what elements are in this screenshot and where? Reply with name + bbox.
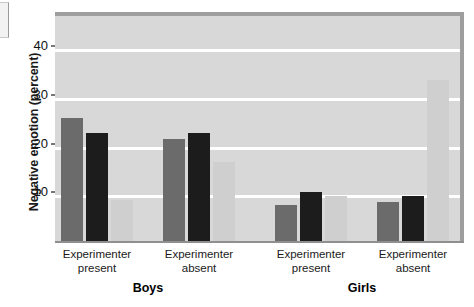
plot-area (55, 12, 464, 241)
cluster-label-line: absent (353, 261, 473, 275)
cluster-label-line: Experimenter (353, 247, 473, 261)
bar (275, 205, 297, 241)
bar (111, 200, 133, 241)
cluster-label: Experimenterabsent (353, 247, 473, 275)
bar (163, 139, 185, 241)
bar (377, 202, 399, 241)
bar (300, 192, 322, 241)
bar (402, 196, 424, 241)
bar-chart-figure: Negative emotion (percent) 10203040 Expe… (0, 0, 474, 307)
y-tick-label-40: 40 (8, 38, 48, 53)
y-tick-label-10: 10 (8, 184, 48, 199)
gridline-40 (55, 49, 460, 52)
cluster-label-line: absent (139, 261, 259, 275)
bar (61, 118, 83, 241)
y-tick-label-20: 20 (8, 136, 48, 151)
group-label-girls: Girls (292, 281, 432, 295)
bar (213, 162, 235, 241)
gridline-10 (55, 195, 460, 198)
plot-inner (55, 16, 460, 241)
y-axis-title: Negative emotion (percent) (27, 32, 41, 232)
bar (325, 196, 347, 241)
bar (188, 133, 210, 241)
bar (86, 133, 108, 241)
gridline-20 (55, 147, 460, 150)
bar (427, 80, 449, 241)
y-tick-label-30: 30 (8, 87, 48, 102)
y-tick-mark-20 (51, 143, 55, 145)
cluster-label-line: Experimenter (139, 247, 259, 261)
group-label-boys: Boys (78, 281, 218, 295)
y-tick-mark-40 (51, 45, 55, 47)
page-edge-artifact (0, 2, 9, 38)
y-tick-mark-10 (51, 191, 55, 193)
x-axis-line (55, 241, 464, 243)
cluster-label: Experimenterabsent (139, 247, 259, 275)
y-tick-mark-30 (51, 94, 55, 96)
gridline-30 (55, 98, 460, 101)
